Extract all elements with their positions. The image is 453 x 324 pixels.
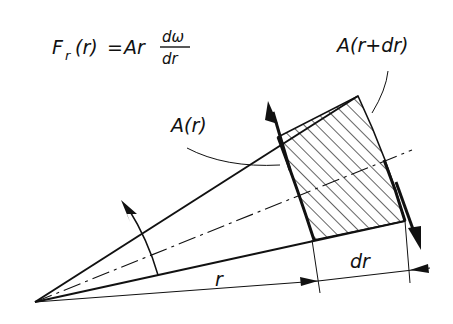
radius-arrowhead-icon	[300, 277, 318, 286]
formula-numerator: dω	[162, 28, 184, 46]
formula: F r (r) = Ar dω dr	[52, 28, 190, 68]
inner-arrowhead-icon	[265, 101, 278, 124]
extension-line-inner	[312, 240, 320, 293]
formula-equals: =	[107, 36, 123, 58]
formula-argument: (r)	[75, 36, 98, 58]
label-increment: dr	[350, 250, 371, 272]
formula-lhs-subscript: r	[65, 48, 72, 63]
increment-arrowhead-icon	[410, 264, 429, 273]
small-arc-arrow	[121, 200, 158, 275]
fluid-element-diagram: F r (r) = Ar dω dr	[0, 0, 453, 324]
leader-area-inner	[187, 148, 280, 165]
leader-area-outer	[372, 71, 388, 113]
outer-arrowhead-icon	[408, 226, 421, 250]
label-radius: r	[215, 268, 224, 290]
formula-rhs-prefix: Ar	[122, 36, 146, 58]
radius-dimension-line	[35, 281, 318, 302]
label-area-outer: A(r+dr)	[335, 34, 408, 56]
extension-line-outer	[405, 221, 410, 283]
formula-lhs: F	[52, 36, 64, 58]
label-area-inner: A(r)	[169, 114, 207, 136]
formula-denominator: dr	[162, 50, 179, 68]
